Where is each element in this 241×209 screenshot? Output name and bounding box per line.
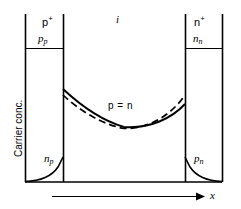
level-label-nn-base: n <box>193 32 199 44</box>
level-label-pn-sub: n <box>200 157 204 166</box>
region-label-n-plus-sup: + <box>200 14 205 23</box>
level-label-nn-sub: n <box>199 37 203 46</box>
curve-label-p-equals-n: p = n <box>108 101 133 111</box>
x-axis-label: x <box>210 190 215 201</box>
carrier-concentration-figure: p+ i n+ pp nn np pn p = n Carrier conc. … <box>0 0 241 209</box>
y-axis-label: Carrier conc. <box>14 100 24 157</box>
level-label-pp: pp <box>38 33 48 44</box>
level-label-np-sub: p <box>50 157 54 166</box>
level-label-pn-base: p <box>194 152 200 164</box>
level-label-pn: pn <box>194 153 204 164</box>
region-label-p-plus-sup: + <box>48 14 53 23</box>
region-label-n-plus: n+ <box>194 15 205 28</box>
level-label-np-base: n <box>44 152 50 164</box>
level-label-pp-base: p <box>38 32 44 44</box>
x-axis-arrow-head <box>196 193 205 201</box>
level-label-nn: nn <box>193 33 203 44</box>
level-label-np: np <box>44 153 54 164</box>
level-label-pp-sub: p <box>44 37 48 46</box>
region-label-intrinsic: i <box>116 14 119 25</box>
region-label-p-plus: p+ <box>42 15 53 28</box>
